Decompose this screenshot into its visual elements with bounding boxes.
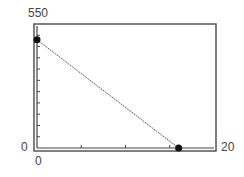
data-series [34, 36, 183, 151]
plot-area [0, 0, 244, 177]
data-point-marker [34, 36, 41, 43]
data-point-marker [175, 145, 182, 152]
plot-frame [34, 24, 216, 151]
